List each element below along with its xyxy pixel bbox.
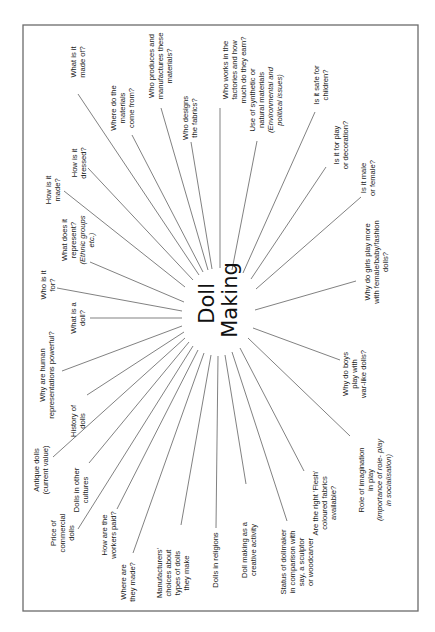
topic-line: children? <box>321 70 330 101</box>
topic-line: Who designs <box>181 96 190 140</box>
topic-what-doll: What is adoll? <box>69 301 87 333</box>
topic-line: workers paid? <box>109 511 118 559</box>
topic-line: How is it <box>70 148 79 178</box>
topic-line: materials? <box>165 48 174 83</box>
topic-line: Who produces and <box>147 34 156 98</box>
topic-where-materials: Where do thematerialscome from? <box>109 85 136 131</box>
connector-line-where-made <box>133 353 204 553</box>
topic-workers-paid: How are theworkers paid? <box>100 511 118 559</box>
topic-status: Status of dollmakerin comparison withsay… <box>279 529 315 594</box>
topic-line: represent? <box>69 222 78 258</box>
connector-line-how-dressed <box>88 168 193 280</box>
topic-flesh-fabrics: Are the right 'Flesh'coloured fabricsava… <box>311 470 338 535</box>
topic-line: representations powerful? <box>47 331 56 418</box>
topic-line: Antique dolls <box>32 448 41 492</box>
topic-line: come from? <box>127 88 136 128</box>
connector-line-religions <box>216 356 218 528</box>
topic-line: war-like dolls? <box>359 350 368 399</box>
topic-line: etc.) <box>87 232 96 247</box>
connector-line-male-female <box>256 197 361 289</box>
topic-line: doll? <box>78 310 87 326</box>
topic-line: Price of <box>49 519 58 546</box>
topic-line: (importance of role- play <box>375 438 384 521</box>
topic-antique: Antique dolls(current value) <box>32 445 50 494</box>
topic-boys-war: Why do boysplay withwar-like dolls? <box>341 350 368 399</box>
topic-line: in play <box>366 469 375 491</box>
connector-line-status <box>232 352 287 521</box>
topic-line: How is it <box>44 175 53 205</box>
topic-line: play with <box>350 359 359 389</box>
topic-imagination: Role of imaginationin play(importance of… <box>357 438 393 521</box>
topic-line: Dolls in other <box>72 467 81 512</box>
connector-line-history <box>87 332 184 395</box>
topic-line: How are the <box>100 515 109 556</box>
topic-line: Is it for play <box>332 125 341 164</box>
topic-line: Are the right 'Flesh' <box>311 470 320 535</box>
topic-human-powerful: Why are humanrepresentations powerful? <box>38 331 56 418</box>
topic-line: or woodcarver <box>306 537 315 586</box>
topic-line: What is it <box>69 46 78 78</box>
topic-who-for: Who is itfor? <box>39 270 57 300</box>
topic-line: political issues) <box>275 74 284 127</box>
topic-other-cultures: Dolls in othercultures <box>72 467 90 512</box>
topic-line: say, a sculptor <box>297 537 306 586</box>
connector-line-creative <box>225 355 246 484</box>
topic-line: they made? <box>128 562 137 602</box>
connector-line-manufacturers <box>181 355 211 525</box>
topic-line: dolls <box>67 525 76 541</box>
connector-line-price <box>78 346 193 529</box>
connector-line-where-materials <box>132 135 203 272</box>
topic-history: History ofdolls <box>69 404 87 437</box>
topic-line: choices about <box>164 549 173 597</box>
topic-line: Where do the <box>109 85 118 131</box>
topic-line: Is it safe for <box>312 65 321 105</box>
topic-line: creative activity <box>249 524 258 576</box>
topic-line: in comparison with <box>288 531 297 594</box>
topic-line: or decoration? <box>341 121 350 170</box>
topic-line: (current value) <box>41 445 50 494</box>
center-title-line-1: Doll <box>195 283 219 324</box>
topic-line: cultures <box>81 477 90 504</box>
topic-line: Why do boys <box>341 352 350 396</box>
topic-line: (Ethnic groups <box>78 215 87 264</box>
topic-price: Price ofcommercialdolls <box>49 513 76 552</box>
topic-line: Is it male <box>359 163 368 193</box>
topic-manufacturers: Manufacturers'choices abouttypes of doll… <box>155 547 191 598</box>
topic-line: or female? <box>368 160 377 196</box>
topic-line: What is a <box>69 301 78 333</box>
topic-line: Manufacturers' <box>155 547 164 598</box>
topic-line: Why are human <box>38 348 47 402</box>
topic-line: dolls <box>78 413 87 429</box>
center-title: Doll Making <box>195 262 242 338</box>
topic-who-works: Who works in thefactories and howmuch do… <box>221 36 248 103</box>
topic-line: for? <box>48 278 57 291</box>
topic-synthetic-natural: Use of synthetic ornatural materials(Env… <box>248 66 284 133</box>
topic-line: Use of synthetic or <box>248 68 257 131</box>
topic-line: materials <box>118 92 127 123</box>
topic-line: Dolls in religions <box>211 532 220 587</box>
topic-line: manufactures these <box>156 33 165 100</box>
topic-line: Where are <box>119 564 128 599</box>
topic-line: Who works in the <box>221 41 230 99</box>
topic-line: coloured fabrics <box>320 476 329 530</box>
connector-line-safe-children <box>243 112 315 273</box>
topic-line: available? <box>329 486 338 520</box>
topic-line: in socialisation) <box>384 454 393 506</box>
topic-who-designs: Who designsthe fabrics? <box>181 96 199 140</box>
topic-line: dolls? <box>381 252 390 272</box>
topic-line: (Environmental and <box>266 66 275 133</box>
topic-line: types of dolls <box>173 551 182 596</box>
topic-line: commercial <box>58 513 67 552</box>
topic-religions: Dolls in religions <box>211 532 220 587</box>
connector-line-other-cultures <box>89 342 189 463</box>
topic-line: History of <box>69 404 78 437</box>
topic-line: dressed? <box>79 147 88 178</box>
topic-line: the fabrics? <box>190 98 199 137</box>
connector-line-who-designs <box>191 142 212 269</box>
topic-line: Who is it <box>39 270 48 300</box>
topic-line: Role of imagination <box>357 447 366 512</box>
topic-girls-fashion: Why do girls play morewith female/baby/f… <box>363 220 390 305</box>
topic-how-made: How is itmade? <box>44 175 62 205</box>
connector-line-girls-fashion <box>255 281 356 310</box>
topic-how-dressed: How is itdressed? <box>70 147 88 178</box>
